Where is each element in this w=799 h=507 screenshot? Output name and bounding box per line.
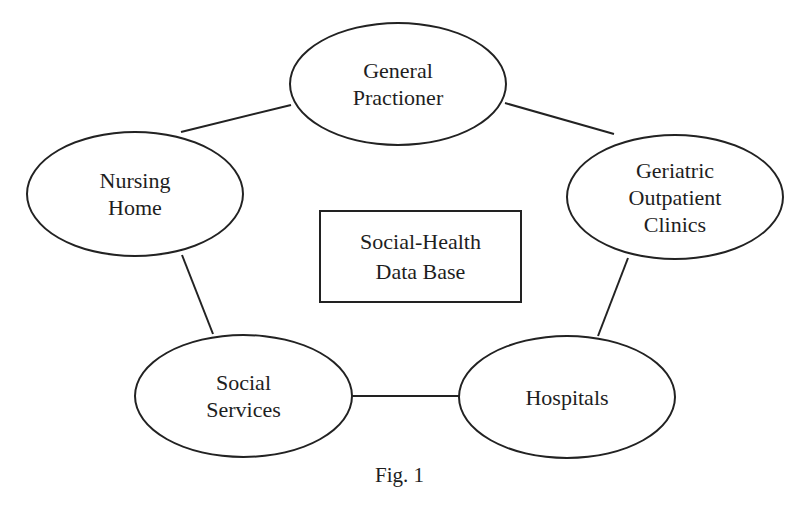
node-label-line: Practioner xyxy=(353,84,443,111)
center-data-base-box: Social-Health Data Base xyxy=(319,210,522,303)
center-label-line: Social-Health xyxy=(360,227,481,257)
node-label-line: General xyxy=(353,57,443,84)
node-label-line: Home xyxy=(100,194,171,221)
node-nursing-home: Nursing Home xyxy=(26,131,244,257)
center-label-line: Data Base xyxy=(376,257,466,287)
edge-gp-geriatric xyxy=(505,103,614,134)
node-hospitals: Hospitals xyxy=(458,335,676,459)
edge-nursing-social xyxy=(182,255,213,334)
node-label-line: Services xyxy=(206,396,281,423)
node-label-line: Geriatric xyxy=(629,157,722,184)
edge-gp-nursing xyxy=(181,105,291,132)
node-label-line: Outpatient xyxy=(629,184,722,211)
node-social-services: Social Services xyxy=(134,334,353,458)
node-label-line: Hospitals xyxy=(525,384,608,411)
edge-geriatric-hospitals xyxy=(598,258,628,336)
node-label-line: Nursing xyxy=(100,167,171,194)
node-general-practioner: General Practioner xyxy=(289,22,507,146)
figure-caption: Fig. 1 xyxy=(0,463,799,488)
node-label-line: Clinics xyxy=(629,211,722,238)
node-geriatric-outpatient-clinics: Geriatric Outpatient Clinics xyxy=(566,134,784,260)
node-label-line: Social xyxy=(206,369,281,396)
